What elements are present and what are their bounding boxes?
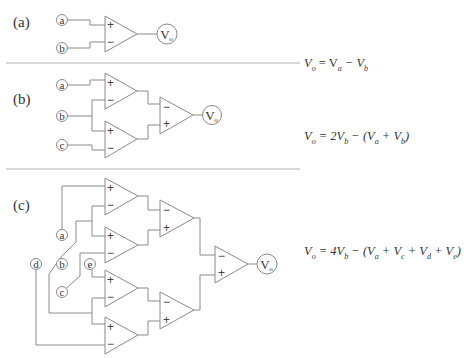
svg-text:+: + [107,320,114,334]
svg-text:−: − [107,290,114,304]
svg-text:−: − [163,295,170,309]
equation-b: Vo = 2Vb − (Va + Vb) [304,129,409,146]
svg-text:b: b [59,42,65,54]
svg-text:−: − [107,337,114,351]
svg-text:−: − [218,249,225,263]
op-amp-diagram: (a) + − a b V o (b) + − + − − + [0,0,470,358]
svg-text:+: + [163,221,170,235]
panel-label-b: (b) [13,91,31,108]
svg-text:−: − [107,93,114,107]
svg-text:a: a [60,229,65,241]
svg-text:−: − [163,203,170,217]
svg-text:+: + [163,313,170,327]
svg-text:b: b [59,258,65,270]
panel-b: (b) + − + − − + a b c V o [13,73,222,158]
svg-text:+: + [107,229,114,243]
svg-text:a: a [60,14,65,26]
svg-text:+: + [107,273,114,287]
svg-text:c: c [60,286,65,298]
svg-text:−: − [107,198,114,212]
svg-text:d: d [33,258,39,270]
panel-a: (a) + − a b V o [13,14,177,54]
svg-text:+: + [163,117,170,131]
svg-text:a: a [60,79,65,91]
svg-text:+: + [107,181,114,195]
panel-label-c: (c) [13,197,30,214]
panel-c: (c) + − + − + − + − − + − + − + [13,178,277,354]
equation-a: Vo = Va − Vb [304,56,368,73]
svg-text:−: − [107,246,114,260]
svg-text:+: + [107,76,114,90]
svg-text:o: o [169,35,173,43]
svg-text:c: c [60,139,65,151]
minus-sign: − [107,35,114,49]
equation-c: Vo = 4Vb − (Va + Vc + Vd + Ve) [304,244,461,261]
svg-text:−: − [163,100,170,114]
svg-text:o: o [214,116,218,124]
svg-text:−: − [107,141,114,155]
svg-text:e: e [88,258,93,270]
plus-sign: + [107,18,114,32]
svg-text:b: b [59,110,65,122]
svg-text:+: + [107,124,114,138]
svg-text:o: o [269,265,273,273]
svg-text:+: + [218,266,225,280]
panel-label-a: (a) [13,14,30,31]
